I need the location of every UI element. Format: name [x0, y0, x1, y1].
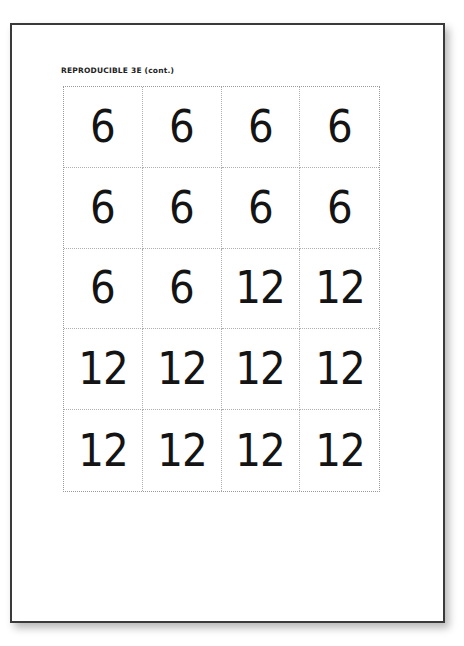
number-card: 12: [300, 410, 379, 491]
number-card: 12: [64, 410, 143, 491]
number-card: 6: [143, 168, 222, 249]
card-number: 12: [78, 429, 128, 473]
number-card: 6: [143, 87, 222, 168]
number-card: 12: [300, 249, 379, 330]
card-number: 6: [90, 266, 115, 310]
card-number: 12: [236, 266, 286, 310]
number-card: 6: [300, 168, 379, 249]
card-number: 12: [78, 347, 128, 391]
number-card: 6: [64, 168, 143, 249]
card-number: 12: [236, 347, 286, 391]
card-number: 6: [248, 105, 273, 149]
number-card: 12: [222, 410, 301, 491]
card-number: 6: [327, 105, 352, 149]
card-number: 12: [157, 347, 207, 391]
number-card: 12: [222, 329, 301, 410]
number-card: 6: [64, 87, 143, 168]
card-number: 12: [157, 429, 207, 473]
number-card: 12: [64, 329, 143, 410]
number-card: 12: [143, 410, 222, 491]
reproducible-header: REPRODUCIBLE 3E (cont.): [61, 66, 174, 75]
number-card: 6: [300, 87, 379, 168]
number-card: 6: [143, 249, 222, 330]
card-number: 6: [90, 105, 115, 149]
card-number: 6: [327, 186, 352, 230]
card-number: 12: [315, 266, 365, 310]
card-number: 12: [315, 347, 365, 391]
card-number: 6: [169, 186, 194, 230]
card-number: 6: [169, 105, 194, 149]
card-number: 6: [169, 266, 194, 310]
number-card: 12: [143, 329, 222, 410]
number-card: 6: [222, 168, 301, 249]
card-number: 12: [236, 429, 286, 473]
card-number: 6: [248, 186, 273, 230]
number-card: 12: [300, 329, 379, 410]
number-card-grid: 6 6 6 6 6 6 6 6 6 6 12 12 12 12 12 12 12…: [63, 86, 380, 492]
number-card: 6: [64, 249, 143, 330]
card-number: 12: [315, 429, 365, 473]
card-number: 6: [90, 186, 115, 230]
number-card: 6: [222, 87, 301, 168]
number-card: 12: [222, 249, 301, 330]
